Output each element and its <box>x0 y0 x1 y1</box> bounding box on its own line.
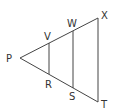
label-S: S <box>69 91 75 102</box>
label-W: W <box>67 18 77 29</box>
triangle-diagram: P V W X R S T <box>0 0 116 109</box>
label-X: X <box>101 10 108 21</box>
label-P: P <box>6 53 12 64</box>
label-T: T <box>100 99 108 109</box>
segment-PX <box>20 18 98 58</box>
label-R: R <box>45 79 52 90</box>
label-V: V <box>44 31 51 42</box>
segment-PT <box>20 58 98 102</box>
